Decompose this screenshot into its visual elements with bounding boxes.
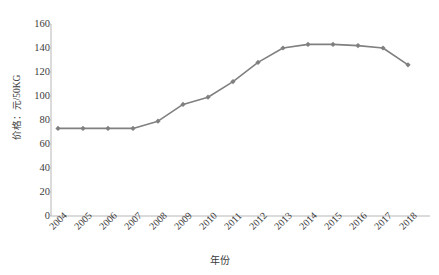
- x-axis-tick-label: 2012: [247, 210, 269, 232]
- x-axis-tick-label: 2005: [72, 210, 94, 232]
- x-axis-tick-label: 2006: [97, 210, 119, 232]
- x-axis-tick-label: 2010: [197, 210, 219, 232]
- x-axis-tick-label: 2009: [172, 210, 194, 232]
- line-chart: 价格：元/50KG 020406080100120140160 20042005…: [0, 0, 439, 275]
- x-axis-title: 年份: [0, 252, 439, 267]
- x-axis-tick-label: 2014: [297, 210, 319, 232]
- x-axis-tick-label: 2018: [397, 210, 419, 232]
- x-axis-tick-label: 2017: [372, 210, 394, 232]
- x-axis-tick-label: 2004: [47, 210, 69, 232]
- x-axis-tick-label: 2008: [147, 210, 169, 232]
- x-axis-tick-label: 2015: [322, 210, 344, 232]
- x-axis-tick-labels: 2004200520062007200820092010201120122013…: [0, 0, 439, 275]
- x-axis-tick-label: 2007: [122, 210, 144, 232]
- x-axis-tick-label: 2011: [222, 210, 244, 232]
- x-axis-tick-label: 2013: [272, 210, 294, 232]
- x-axis-tick-label: 2016: [347, 210, 369, 232]
